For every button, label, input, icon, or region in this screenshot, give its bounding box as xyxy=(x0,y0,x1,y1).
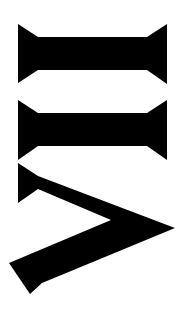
rotated-roman-numeral xyxy=(0,0,185,314)
